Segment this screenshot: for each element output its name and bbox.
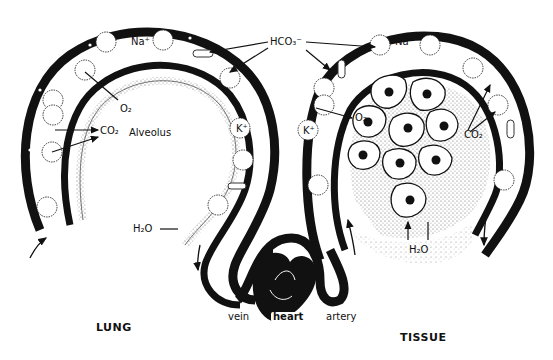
na-label-tissue: Na⁺ (395, 37, 414, 47)
o2-label-tissue: O₂ (355, 113, 367, 123)
co2-label-lung: CO₂ (100, 126, 119, 136)
h2o-label-tissue: H₂O (409, 245, 428, 255)
k-label-tissue: K⁺ (303, 126, 315, 136)
k-label-lung: K⁺ (236, 124, 248, 134)
lung-tissue-exchange-diagram (0, 0, 553, 360)
artery-label: artery (326, 312, 356, 322)
lung-region-label: LUNG (96, 322, 132, 333)
tissue-region-label: TISSUE (400, 332, 446, 343)
na-label-lung: Na⁺ (131, 37, 150, 47)
lung-capillary (25, 30, 274, 305)
heart-circulation (238, 238, 344, 322)
o2-label-lung: O₂ (120, 104, 132, 114)
co2-label-tissue: CO₂ (464, 130, 483, 140)
hco3-label: HCO₃⁻ (270, 37, 302, 47)
alveolus-label: Alveolus (129, 128, 171, 138)
vein-label: vein (228, 312, 249, 322)
tissue-capillary (298, 35, 530, 264)
h2o-label-lung: H₂O (133, 224, 152, 234)
heart-label: heart (271, 312, 305, 322)
